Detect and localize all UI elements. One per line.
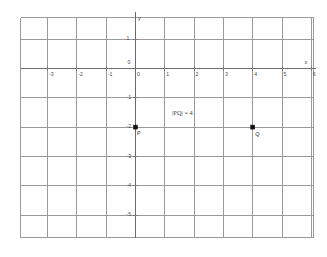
distance-annotation: |PQ| = 4: [172, 110, 193, 116]
x-tick-label: 2: [196, 72, 199, 77]
x-tick-label: 3: [225, 72, 228, 77]
point-label-q: Q: [255, 132, 259, 137]
y-tick-label: -4: [127, 183, 132, 188]
x-tick-label: 1: [166, 72, 169, 77]
y-axis-label: y: [138, 16, 141, 22]
x-axis-label: x: [305, 60, 308, 66]
axis-lines: [21, 12, 316, 238]
x-tick-label: 5: [284, 72, 287, 77]
y-tick-label: 1: [127, 36, 130, 41]
x-tick-label: -3: [49, 72, 54, 77]
y-tick-label: -1: [127, 95, 132, 100]
x-tick-label: 6: [313, 72, 316, 77]
point-label-p: P: [137, 131, 141, 136]
y-tick-label: 0: [128, 60, 131, 65]
grid-horizontal-lines: [21, 18, 314, 238]
coordinate-plane-figure: -3-2-1012345610-1-2-3-4-5 x y P Q |PQ| =…: [0, 0, 327, 257]
x-tick-label: -1: [108, 72, 113, 77]
x-tick-label: 4: [254, 72, 257, 77]
x-tick-label: 0: [137, 72, 140, 77]
x-tick-label: -2: [78, 72, 83, 77]
y-tick-label: -2: [127, 124, 132, 129]
data-point-q: [251, 125, 255, 129]
y-tick-label: -5: [127, 212, 132, 217]
data-point-p: [134, 125, 138, 129]
plot-surface: [0, 0, 327, 257]
y-tick-label: -3: [127, 154, 132, 159]
